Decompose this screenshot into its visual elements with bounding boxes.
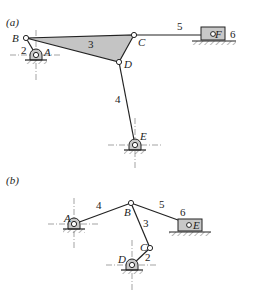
label-e: E — [139, 130, 147, 142]
joint-a — [33, 52, 38, 57]
label-a: A — [43, 46, 51, 58]
label-c: C — [138, 36, 146, 48]
label-link-2: 2 — [145, 251, 151, 263]
label-d: D — [123, 58, 132, 70]
joint-d — [129, 262, 134, 267]
joint-d — [116, 59, 121, 64]
label-link-2: 2 — [21, 44, 27, 56]
link-4 — [74, 203, 131, 224]
panel-a: (a) — [6, 16, 236, 168]
joint-e — [187, 223, 192, 228]
label-link-3: 3 — [143, 217, 149, 229]
joint-b — [23, 35, 28, 40]
label-d: D — [117, 253, 126, 265]
label-link-4: 4 — [96, 199, 102, 211]
link-4 — [119, 62, 135, 145]
panel-a-label: (a) — [6, 16, 19, 29]
joint-b — [128, 200, 133, 205]
label-b: B — [12, 32, 19, 44]
label-link-6: 6 — [230, 28, 236, 40]
panel-b-label: (b) — [6, 174, 19, 187]
label-link-5: 5 — [159, 198, 165, 210]
label-link-4: 4 — [115, 93, 121, 105]
label-link-5: 5 — [177, 20, 183, 32]
label-a: A — [63, 212, 71, 224]
joint-c — [131, 32, 136, 37]
label-link-3: 3 — [88, 38, 94, 50]
slider-6 — [169, 219, 211, 236]
joint-c — [147, 245, 152, 250]
pivot-e-support — [108, 118, 162, 168]
label-b: B — [124, 206, 131, 218]
mechanism-diagram: (a) — [0, 0, 258, 301]
joint-e — [132, 142, 137, 147]
label-link-6: 6 — [180, 206, 186, 218]
label-f: F — [214, 28, 222, 40]
joint-a — [71, 221, 76, 226]
label-e: E — [192, 219, 200, 231]
panel-b: (b) — [6, 174, 211, 290]
